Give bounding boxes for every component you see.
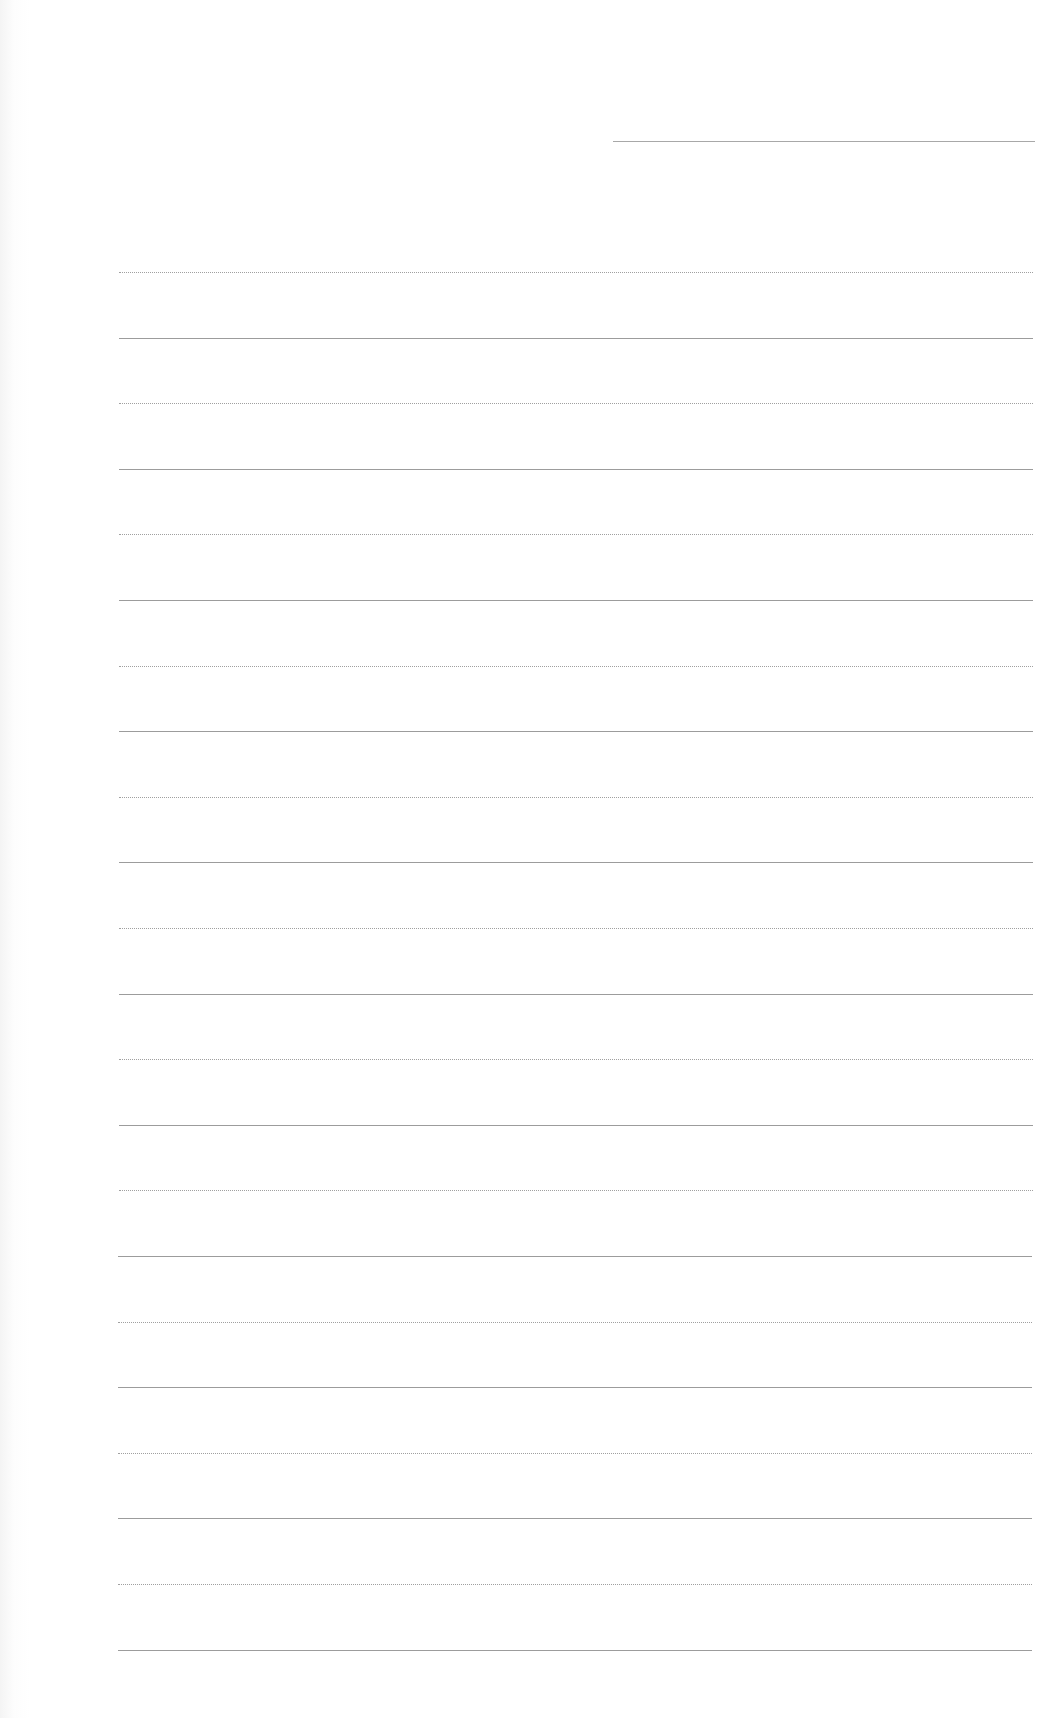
ruled-line	[119, 994, 1033, 995]
ruled-line	[118, 1650, 1032, 1651]
ruled-line	[118, 1584, 1032, 1585]
ruled-line	[118, 1518, 1032, 1519]
ruled-line	[119, 928, 1033, 929]
ruled-line	[118, 1387, 1032, 1388]
ruled-line	[119, 797, 1033, 798]
ruled-line	[119, 469, 1033, 470]
ruled-line	[119, 600, 1033, 601]
ruled-line	[119, 1190, 1033, 1191]
ruled-line	[119, 1125, 1033, 1126]
ruled-line	[119, 731, 1033, 732]
ruled-line	[118, 1322, 1032, 1323]
header-name-line	[613, 141, 1035, 142]
ruled-line	[119, 338, 1033, 339]
ruled-line	[119, 862, 1033, 863]
ruled-line	[118, 1256, 1032, 1257]
ruled-line	[118, 1453, 1032, 1454]
lined-paper-page	[0, 0, 1048, 1718]
ruled-line	[119, 403, 1033, 404]
ruled-line	[119, 1059, 1033, 1060]
ruled-line	[119, 272, 1033, 273]
ruled-line	[119, 666, 1033, 667]
ruled-line	[119, 534, 1033, 535]
